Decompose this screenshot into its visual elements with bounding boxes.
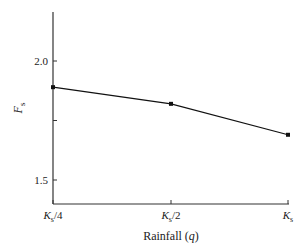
y-tick-label: 1.5	[34, 174, 48, 186]
x-tick-label: Ks	[282, 209, 293, 224]
y-tick-label: 2.0	[34, 55, 48, 67]
x-tick-label: Ks/2	[160, 209, 180, 224]
data-point-marker	[286, 133, 290, 137]
line-chart: 1.52.0 Ks/4Ks/2Ks Fs Rainfall (q)	[0, 0, 307, 252]
data-point-marker	[51, 85, 55, 89]
data-point-marker	[169, 102, 173, 106]
series-fs	[51, 85, 290, 137]
y-axis: 1.52.0	[34, 12, 57, 204]
y-axis-title: Fs	[11, 102, 27, 114]
x-tick-label: Ks/4	[42, 209, 63, 224]
x-axis: Ks/4Ks/2Ks	[42, 200, 293, 224]
x-axis-title: Rainfall (q)	[143, 229, 199, 243]
